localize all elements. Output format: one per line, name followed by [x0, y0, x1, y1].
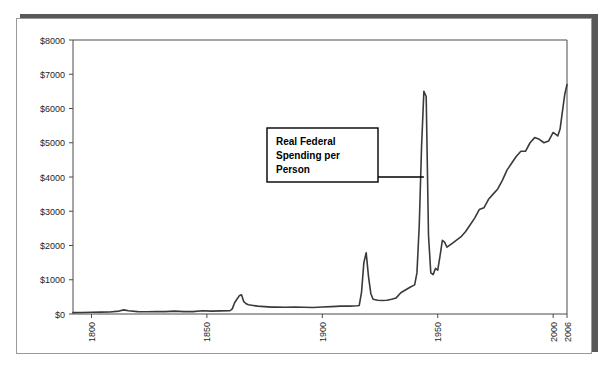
x-axis-tick-label: 1900 [318, 322, 328, 342]
callout-text-line: Real Federal [276, 136, 336, 147]
x-axis-tick-label: 1850 [202, 322, 212, 342]
x-axis-tick-label: 2006 [563, 322, 573, 342]
callout-text-line: Person [276, 164, 310, 175]
x-axis-tick-label: 1800 [87, 322, 97, 342]
y-axis-tick-label: $5000 [40, 138, 65, 148]
series-line-real-federal-spending [73, 85, 567, 313]
y-axis-tick-label: $7000 [40, 70, 65, 80]
chart-figure: $8000$7000$6000$5000$4000$3000$2000$1000… [0, 0, 610, 381]
y-axis-tick-label: $1000 [40, 275, 65, 285]
x-axis-tick-label: 2000 [549, 322, 559, 342]
y-axis-tick-label: $6000 [40, 104, 65, 114]
callout-text-line: Spending per [276, 150, 340, 161]
x-axis-tick-label: 1950 [433, 322, 443, 342]
y-axis-tick-label: $8000 [40, 36, 65, 46]
line-chart-plot: $8000$7000$6000$5000$4000$3000$2000$1000… [0, 0, 610, 381]
y-axis-tick-label: $0 [55, 310, 65, 320]
y-axis-tick-label: $4000 [40, 173, 65, 183]
y-axis-tick-label: $3000 [40, 207, 65, 217]
y-axis-tick-label: $2000 [40, 241, 65, 251]
